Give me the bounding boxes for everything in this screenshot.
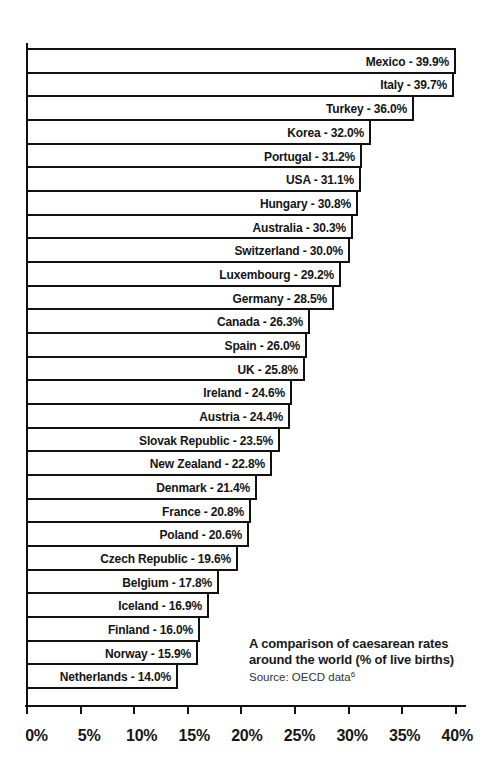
bar: France - 20.8% [27, 500, 251, 524]
bar-chart: Mexico - 39.9%Italy - 39.7%Turkey - 36.0… [0, 0, 491, 784]
x-axis-tick [348, 706, 350, 714]
bar-label: Luxembourg - 29.2% [219, 266, 339, 282]
bar: Australia - 30.3% [27, 216, 353, 240]
bar-label: Slovak Republic - 23.5% [139, 432, 278, 448]
source-text: Source: OECD data [249, 671, 351, 683]
bar: Luxembourg - 29.2% [27, 263, 341, 287]
bar-label: Spain - 26.0% [225, 337, 305, 353]
bar: Hungary - 30.8% [27, 192, 358, 216]
bar: New Zealand - 22.8% [27, 452, 272, 476]
bar: Canada - 26.3% [27, 310, 310, 334]
bar: Spain - 26.0% [27, 334, 307, 358]
bar-label: Switzerland - 30.0% [234, 242, 348, 258]
bar: Germany - 28.5% [27, 287, 334, 311]
footnote-marker: 6 [351, 670, 355, 679]
bar: Poland - 20.6% [27, 523, 249, 547]
x-axis-tick [294, 706, 296, 714]
bar: UK - 25.8% [27, 358, 305, 382]
bar: Netherlands - 14.0% [27, 665, 178, 689]
x-axis-tick-label: 35% [380, 727, 430, 745]
bar: Austria - 24.4% [27, 405, 290, 429]
bar-label: Portugal - 31.2% [264, 148, 360, 164]
chart-source: Source: OECD data6 [249, 669, 484, 685]
x-axis-tick-label: 5% [64, 727, 114, 745]
bar: Ireland - 24.6% [27, 381, 292, 405]
bar-label: New Zealand - 22.8% [150, 455, 270, 471]
bar-label: Norway - 15.9% [105, 645, 196, 661]
chart-title-line-2: around the world (% of live births) [249, 652, 484, 668]
x-axis-tick-label: 20% [222, 727, 272, 745]
bar-label: Hungary - 30.8% [260, 195, 356, 211]
bar-label: Mexico - 39.9% [366, 53, 454, 69]
chart-title-line-1: A comparison of caesarean rates [249, 636, 484, 652]
bar: Iceland - 16.9% [27, 594, 209, 618]
x-axis-line [25, 705, 466, 707]
x-axis-tick [80, 706, 82, 714]
bar-label: UK - 25.8% [237, 361, 303, 377]
bar-label: Canada - 26.3% [217, 313, 308, 329]
bar-label: Poland - 20.6% [159, 526, 247, 542]
bar: Norway - 15.9% [27, 642, 198, 666]
x-axis-tick-label: 25% [275, 727, 325, 745]
bar: Finland - 16.0% [27, 618, 200, 642]
bar-label: Turkey - 36.0% [326, 100, 412, 116]
x-axis-tick-label: 40% [432, 727, 482, 745]
bar: Slovak Republic - 23.5% [27, 429, 280, 453]
bar-label: Australia - 30.3% [253, 219, 352, 235]
bar-label: Germany - 28.5% [233, 290, 332, 306]
bar: Turkey - 36.0% [27, 97, 414, 121]
x-axis-tick [26, 706, 28, 714]
chart-title: A comparison of caesarean rates around t… [249, 636, 484, 668]
bar: Switzerland - 30.0% [27, 239, 350, 263]
bar-label: Austria - 24.4% [199, 408, 288, 424]
bar-label: France - 20.8% [162, 503, 249, 519]
x-axis-tick [455, 706, 457, 714]
bar: Denmark - 21.4% [27, 476, 257, 500]
x-axis-tick-label: 15% [169, 727, 219, 745]
x-axis-tick [240, 706, 242, 714]
x-axis-tick [187, 706, 189, 714]
bar-label: Italy - 39.7% [380, 76, 452, 92]
bar-label: Ireland - 24.6% [203, 384, 290, 400]
bar-label: Netherlands - 14.0% [60, 668, 176, 684]
bar: Belgium - 17.8% [27, 571, 219, 595]
y-axis-line [26, 43, 28, 714]
bar-label: Denmark - 21.4% [156, 479, 255, 495]
x-axis-tick-label: 30% [327, 727, 377, 745]
bar-label: Belgium - 17.8% [122, 574, 217, 590]
x-axis-tick [401, 706, 403, 714]
bar: Portugal - 31.2% [27, 145, 362, 169]
x-axis-tick-label: 10% [117, 727, 167, 745]
bar: Czech Republic - 19.6% [27, 547, 238, 571]
x-axis-tick-label: 0% [12, 727, 62, 745]
x-axis-tick [133, 706, 135, 714]
bar-label: Czech Republic - 19.6% [100, 550, 236, 566]
bar-label: Iceland - 16.9% [118, 597, 207, 613]
bar-label: Finland - 16.0% [108, 621, 198, 637]
bar-label: USA - 31.1% [286, 171, 359, 187]
bar: Italy - 39.7% [27, 74, 454, 98]
bar-label: Korea - 32.0% [287, 124, 369, 140]
chart-caption: A comparison of caesarean rates around t… [249, 636, 484, 685]
bar: Korea - 32.0% [27, 121, 371, 145]
bar: Mexico - 39.9% [27, 48, 456, 74]
bar: USA - 31.1% [27, 168, 361, 192]
